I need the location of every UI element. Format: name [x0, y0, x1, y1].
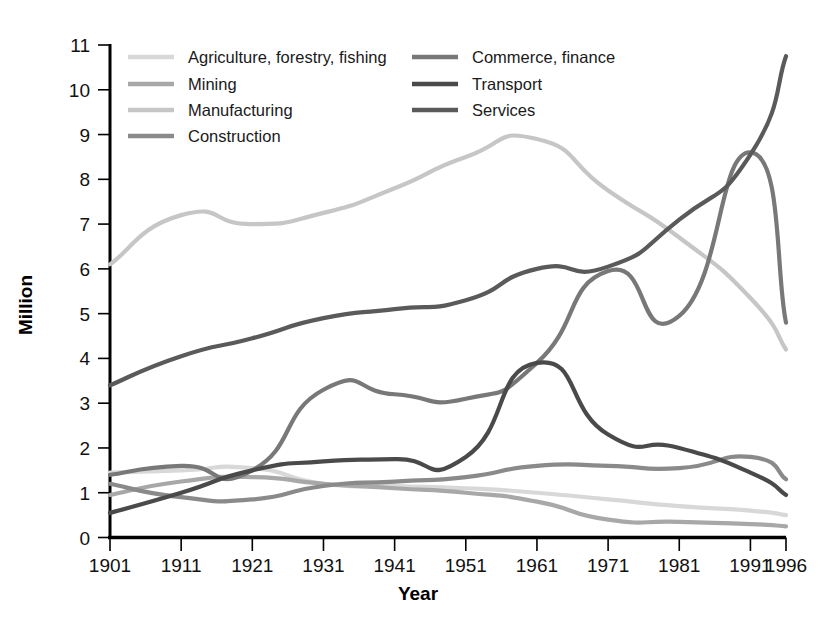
- x-tick-label: 1901: [89, 555, 131, 576]
- y-tick-label: 11: [70, 35, 90, 56]
- series-line: [110, 135, 786, 349]
- x-tick-label: 1961: [516, 555, 558, 576]
- y-tick-label: 7: [79, 214, 90, 235]
- line-chart: Million Year 01234567891011 190119111921…: [0, 0, 824, 619]
- y-tick-label: 0: [79, 528, 90, 549]
- legend-label: Manufacturing: [188, 101, 293, 119]
- y-tick-label: 9: [79, 125, 90, 146]
- chart-legend: Agriculture, forestry, fishingMiningManu…: [128, 48, 615, 145]
- x-axis-ticks: 1901191119211931194119511961197119811991…: [89, 538, 807, 577]
- x-tick-label: 1971: [587, 555, 629, 576]
- x-tick-label: 1911: [161, 555, 202, 576]
- x-tick-label: 1981: [658, 555, 700, 576]
- legend-label: Services: [472, 101, 535, 119]
- chart-canvas: Million Year 01234567891011 190119111921…: [0, 0, 824, 619]
- y-axis-title: Million: [15, 275, 36, 335]
- y-tick-label: 1: [79, 483, 90, 504]
- y-tick-label: 2: [79, 438, 90, 459]
- x-axis-title: Year: [398, 583, 439, 604]
- y-tick-label: 6: [79, 259, 90, 280]
- y-tick-label: 8: [79, 169, 90, 190]
- x-tick-label: 1951: [445, 555, 487, 576]
- x-tick-label: 1996: [765, 555, 807, 576]
- y-tick-label: 3: [79, 393, 90, 414]
- legend-label: Agriculture, forestry, fishing: [188, 48, 387, 66]
- y-tick-label: 4: [79, 348, 90, 369]
- y-axis-ticks: 01234567891011: [69, 35, 110, 549]
- legend-label: Construction: [188, 127, 281, 145]
- y-tick-label: 10: [69, 80, 90, 101]
- y-tick-label: 5: [79, 304, 90, 325]
- legend-label: Commerce, finance: [472, 48, 615, 66]
- legend-label: Mining: [188, 75, 237, 93]
- legend-label: Transport: [472, 75, 542, 93]
- x-tick-label: 1931: [302, 555, 344, 576]
- x-tick-label: 1921: [231, 555, 273, 576]
- x-tick-label: 1941: [373, 555, 415, 576]
- series-line: [110, 152, 786, 479]
